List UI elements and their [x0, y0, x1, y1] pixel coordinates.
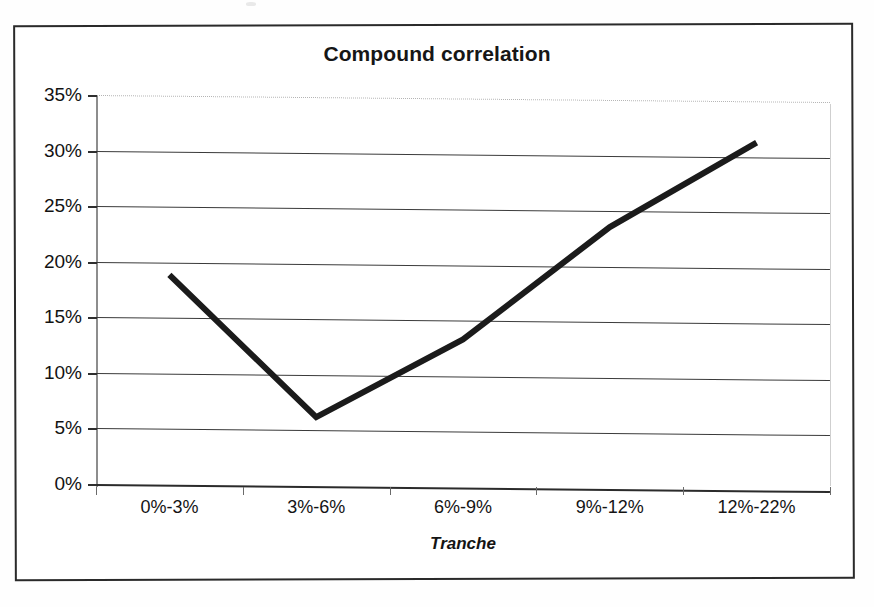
x-axis-tick: [243, 487, 244, 495]
x-axis-tick-label: 12%-22%: [682, 497, 832, 518]
x-axis-tick: [683, 487, 684, 495]
x-axis-tick: [830, 487, 831, 495]
x-axis-tick-label: 0%-3%: [94, 497, 244, 518]
x-axis-tick: [96, 487, 97, 495]
x-axis-tick: [390, 487, 391, 495]
y-axis-tick-label: 25%: [0, 195, 82, 217]
y-axis-tick-label: 15%: [0, 306, 82, 328]
x-axis-tick-label: 6%-9%: [388, 497, 538, 518]
y-axis-tick: [88, 317, 97, 319]
x-axis-tick-label: 3%-6%: [241, 497, 391, 518]
y-axis-tick: [88, 262, 97, 264]
plot-right-edge: [830, 104, 831, 486]
y-axis-tick-label: 10%: [0, 362, 82, 384]
y-axis-tick: [88, 484, 97, 486]
y-axis-tick: [88, 151, 97, 153]
y-axis-tick: [88, 206, 97, 208]
y-axis-tick: [88, 373, 97, 375]
x-axis-title: Tranche: [96, 534, 830, 554]
y-axis-tick-label: 0%: [0, 473, 82, 495]
x-axis-tick-label: 9%-12%: [535, 497, 685, 518]
y-axis-tick: [88, 428, 97, 430]
scan-artifact: [246, 2, 256, 6]
y-axis-tick-label: 20%: [0, 251, 82, 273]
chart-title: Compound correlation: [0, 42, 874, 66]
y-axis-tick-label: 30%: [0, 140, 82, 162]
x-axis-tick: [536, 487, 537, 495]
y-axis-tick-label: 5%: [0, 417, 82, 439]
y-axis-tick-label: 35%: [0, 84, 82, 106]
chart-figure: Compound correlation 0%5%10%15%20%25%30%…: [0, 0, 874, 607]
y-axis-tick: [88, 95, 97, 97]
